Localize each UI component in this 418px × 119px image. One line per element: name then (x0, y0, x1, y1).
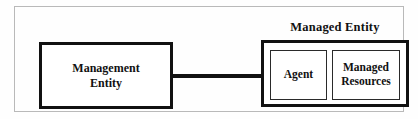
managed-entity-group-title: Managed Entity (261, 20, 409, 35)
management-entity-label: Management Entity (72, 61, 139, 91)
management-entity-node: Management Entity (39, 42, 173, 109)
managed-entity-group-node: Agent Managed Resources (261, 40, 409, 107)
agent-node: Agent (270, 50, 327, 100)
diagram-canvas: Management Entity Managed Entity Agent M… (0, 0, 418, 119)
managed-resources-label: Managed Resources (341, 61, 391, 89)
managed-resources-node: Managed Resources (332, 50, 400, 100)
figure-frame: Management Entity Managed Entity Agent M… (14, 6, 404, 112)
agent-label: Agent (284, 68, 313, 82)
connector-line (172, 74, 264, 78)
